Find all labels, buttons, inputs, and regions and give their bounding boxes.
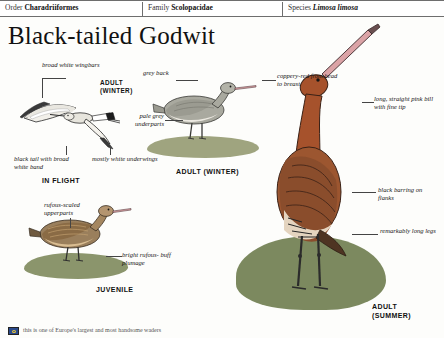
- leader-black-barring: [352, 192, 376, 193]
- leader-black-tail: [66, 146, 67, 155]
- annotation-long-straight-bill: long, straight pink bill with fine tip: [374, 95, 436, 111]
- annotation-black-barring: black barring on flanks: [378, 186, 436, 202]
- leader-long-legs: [352, 234, 378, 235]
- footer-note: this is one of Europe's largest and most…: [23, 327, 161, 333]
- leader-wingbars-drop: [42, 78, 43, 98]
- annotation-mostly-white-underwings: mostly white underwings: [92, 155, 160, 163]
- taxonomy-divider-1: [142, 2, 143, 17]
- leader-underwings: [110, 146, 111, 155]
- caption-adult-summer: ADULT (SUMMER): [372, 302, 411, 320]
- leader-bill: [362, 102, 374, 103]
- annotation-rufous-scaled-upperparts: rufous-scaled upperparts: [44, 201, 106, 217]
- taxonomy-species: Species Limosa limosa: [288, 0, 358, 15]
- illustration-in-flight: [14, 92, 124, 154]
- annotation-broad-white-wingbars: broad white wingbars: [42, 61, 102, 69]
- family-value: Scolopacidae: [171, 3, 213, 12]
- illustration-adult-summer: [262, 24, 398, 300]
- annotation-black-tail: black tail with broad white band: [14, 155, 84, 171]
- annotation-grey-back: grey back: [143, 69, 193, 77]
- illustration-adult-winter: [152, 76, 257, 146]
- caption-juvenile: JUVENILE: [96, 286, 133, 293]
- leader-grey-back: [176, 80, 198, 81]
- adult-summer-artwork: [262, 24, 398, 300]
- leader-underparts: [165, 120, 183, 121]
- annotation-pale-grey-underparts: pale grey underparts: [110, 112, 164, 128]
- leader-buff-plumage: [106, 256, 122, 257]
- leader-wingbars: [42, 78, 66, 79]
- caption-adult-winter-inline: ADULT (WINTER): [100, 79, 133, 95]
- adult-winter-artwork: [152, 76, 257, 146]
- in-flight-artwork: [14, 92, 124, 154]
- species-label: Species: [288, 3, 311, 12]
- species-value: Limosa limosa: [313, 3, 358, 12]
- order-value: Charadriiformes: [24, 3, 78, 12]
- caption-in-flight: IN FLIGHT: [42, 177, 80, 184]
- annotation-long-legs: remarkably long legs: [380, 227, 436, 235]
- caption-adult-winter: ADULT (WINTER): [176, 168, 239, 175]
- taxonomy-family: Family Scolopacidae: [148, 0, 213, 15]
- annotation-buff-plumage: bright rufous- buff plumage: [122, 251, 182, 267]
- annotation-coppery-red: coppery-red from head to breast: [277, 72, 339, 88]
- leader-rufous-scaled: [70, 218, 71, 228]
- taxonomy-divider-2: [282, 2, 283, 17]
- region-flag-icon: [8, 327, 19, 335]
- page-title: Black-tailed Godwit: [8, 22, 215, 50]
- family-label: Family: [148, 3, 169, 12]
- taxonomy-order: Order Charadriiformes: [5, 0, 79, 15]
- leader-coppery-red: [262, 80, 276, 81]
- order-label: Order: [5, 3, 23, 12]
- field-guide-page: Order Charadriiformes Family Scolopacida…: [0, 0, 444, 338]
